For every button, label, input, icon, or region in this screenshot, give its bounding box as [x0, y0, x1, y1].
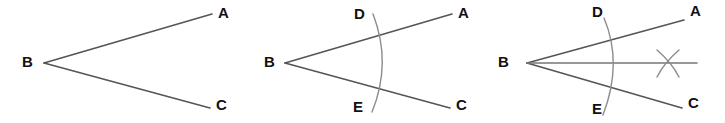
panel-2-arc: D E B A C: [264, 4, 469, 115]
geometry-figure: B A C D E B A C D E B A C: [0, 0, 725, 123]
panel1-label-b: B: [22, 53, 33, 70]
panel1-label-c: C: [216, 96, 227, 113]
panel3-label-c: C: [688, 94, 699, 111]
panel2-ray-ba: [285, 14, 452, 63]
panel2-ray-bc: [285, 63, 450, 108]
panel1-ray-ba: [44, 14, 212, 63]
panel3-ray-bc: [527, 63, 682, 108]
panel3-label-b: B: [498, 53, 509, 70]
panel3-label-a: A: [690, 2, 701, 19]
panel2-label-d: D: [354, 5, 365, 22]
panel-1-angle: B A C: [22, 4, 229, 113]
panel2-label-e: E: [353, 98, 363, 115]
panel1-ray-bc: [44, 63, 210, 108]
panel3-ray-ba: [527, 20, 684, 63]
panel2-construction-arc: [372, 14, 382, 112]
panel2-label-c: C: [456, 96, 467, 113]
panel2-label-a: A: [458, 4, 469, 21]
panel-3-bisector: D E B A C: [498, 2, 701, 117]
panel3-label-e: E: [592, 100, 602, 117]
figure-canvas: B A C D E B A C D E B A C: [0, 0, 725, 123]
panel1-label-a: A: [218, 4, 229, 21]
panel3-label-d: D: [592, 3, 603, 20]
panel2-label-b: B: [264, 53, 275, 70]
panel3-construction-arc: [603, 18, 613, 115]
